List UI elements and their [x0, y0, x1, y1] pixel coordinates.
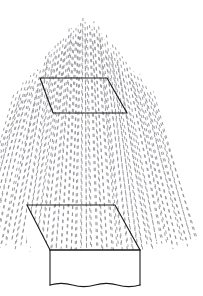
figure-root: [0, 0, 203, 296]
box-front-face-fill: [50, 250, 140, 285]
rain-collection-diagram: [0, 0, 203, 296]
